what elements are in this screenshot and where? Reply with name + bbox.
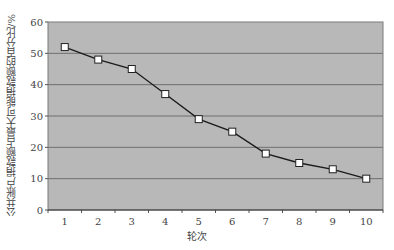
y-tick-label: 50 [30,48,43,59]
x-tick-label: 8 [296,216,302,227]
x-tick-label: 7 [263,216,269,227]
x-tick-label: 1 [62,216,68,227]
x-tick-label: 9 [330,216,336,227]
y-axis-label-text: 公共账户捐款额占最大可能捐款额的百分比/% [4,14,19,217]
data-point-marker [229,128,236,135]
y-tick-label: 60 [30,17,43,28]
x-tick-label: 10 [360,216,373,227]
data-point-marker [162,91,169,98]
data-point-marker [363,175,370,182]
data-point-marker [195,116,202,123]
data-point-marker [262,150,269,157]
x-axis-label: 轮次 [0,228,394,243]
line-chart: 0102030405060 12345678910 [0,0,394,250]
data-point-marker [128,66,135,73]
y-axis-label: 公共账户捐款额占最大可能捐款额的百分比/% [0,15,22,215]
x-tick-label: 3 [129,216,135,227]
data-point-marker [61,44,68,51]
x-tick-label: 6 [229,216,235,227]
x-tick-label: 2 [95,216,101,227]
x-tick-label: 5 [196,216,202,227]
y-tick-label: 40 [30,79,43,90]
x-axis-ticks: 12345678910 [48,210,383,227]
y-tick-label: 30 [30,111,43,122]
data-point-marker [296,160,303,167]
x-tick-label: 4 [162,216,168,227]
data-point-marker [95,56,102,63]
y-tick-label: 0 [37,205,43,216]
y-tick-label: 20 [30,142,43,153]
y-axis-ticks: 0102030405060 [30,17,48,216]
y-tick-label: 10 [30,173,43,184]
data-point-marker [329,166,336,173]
